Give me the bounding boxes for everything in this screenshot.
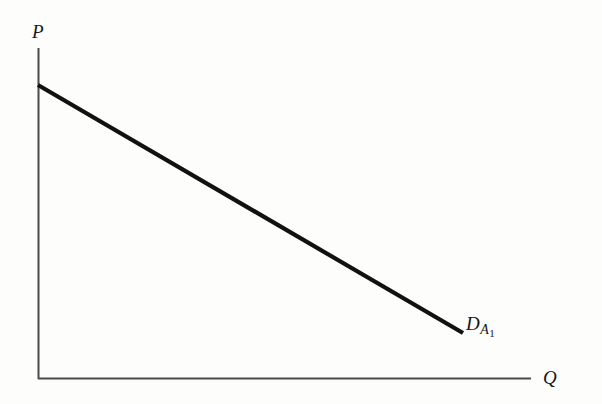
demand-curve-label: DA1 (466, 314, 494, 333)
demand-curve-label-sub-subscript: 1 (489, 327, 495, 339)
plot-canvas (0, 0, 602, 404)
demand-curve-figure: P Q DA1 (0, 0, 602, 404)
demand-curve-line (38, 85, 463, 333)
quantity-axis-label: Q (543, 368, 557, 387)
demand-curve-label-main: D (466, 313, 480, 334)
price-axis-label: P (32, 22, 44, 41)
demand-curve-label-subscript: A (480, 322, 489, 337)
